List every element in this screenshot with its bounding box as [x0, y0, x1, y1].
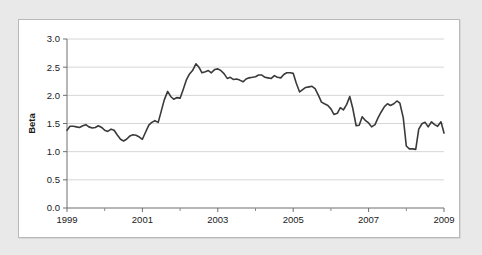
x-axis-ticks: 199920012003200520072009 — [56, 208, 454, 225]
y-tick-label: 2.0 — [47, 90, 60, 101]
y-tick-label: 2.5 — [47, 62, 60, 73]
data-line-beta — [67, 64, 444, 150]
chart-page: 0.00.51.01.52.02.53.01999200120032005200… — [0, 0, 482, 255]
y-tick-label: 0.0 — [47, 202, 60, 213]
x-tick-label: 2005 — [283, 214, 304, 225]
x-tick-label: 2001 — [132, 214, 153, 225]
y-tick-label: 0.5 — [47, 174, 60, 185]
y-axis-ticks: 0.00.51.01.52.02.53.0 — [47, 33, 67, 213]
x-tick-label: 2007 — [358, 214, 379, 225]
x-tick-label: 2003 — [207, 214, 228, 225]
y-tick-label: 1.0 — [47, 146, 60, 157]
y-tick-label: 3.0 — [47, 33, 60, 44]
figure-frame: 0.00.51.01.52.02.53.01999200120032005200… — [18, 19, 460, 238]
x-tick-label: 2009 — [433, 214, 454, 225]
y-tick-label: 1.5 — [47, 118, 60, 129]
x-tick-label: 1999 — [56, 214, 77, 225]
beta-line-chart: 0.00.51.01.52.02.53.01999200120032005200… — [19, 20, 459, 237]
gridlines — [67, 39, 444, 180]
y-axis-title: Beta — [26, 112, 37, 133]
